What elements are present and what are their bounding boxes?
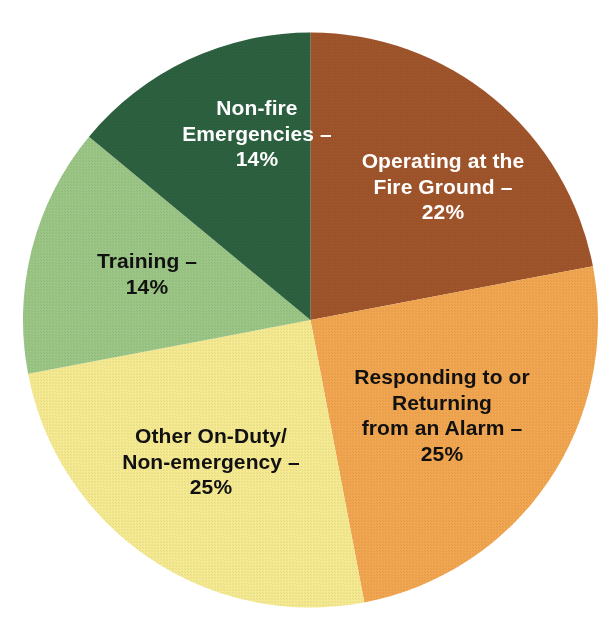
pie-slices <box>23 33 598 608</box>
pie-chart <box>22 31 599 609</box>
pie-chart-figure: Operating at the Fire Ground – 22% Respo… <box>0 0 610 635</box>
pie-chart-svg <box>22 31 599 609</box>
